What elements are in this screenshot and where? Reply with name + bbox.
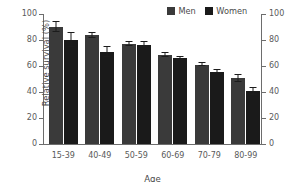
y-tick-label-right-20: 20: [269, 114, 301, 122]
y-tick-label-left-60: 60: [0, 62, 37, 70]
error-bar-line: [70, 33, 71, 47]
x-tick-label-50-59: 50-59: [116, 151, 156, 160]
x-tick-label-80-99: 80-99: [226, 151, 266, 160]
error-bar-cap-bottom: [250, 94, 257, 95]
y-tick-right-40: [262, 92, 266, 93]
error-bar-cap-top: [67, 32, 74, 33]
error-bar-cap-top: [89, 32, 96, 33]
error-bar-cap-top: [140, 41, 147, 42]
error-bar-cap-top: [125, 41, 132, 42]
y-tick-label-left-80: 80: [0, 36, 37, 44]
bar-women-40-49[interactable]: [100, 52, 114, 144]
bar-group: [48, 14, 79, 144]
chart-title-cutoff: [104, 0, 224, 2]
error-bar-cap-top: [235, 74, 242, 75]
bar-groups: [43, 14, 262, 145]
bar-group: [194, 14, 225, 144]
error-bar-cap-bottom: [140, 46, 147, 47]
y-tick-label-right-0: 0: [269, 140, 301, 148]
bar-women-50-59[interactable]: [137, 45, 151, 144]
error-bar-cap-bottom: [235, 81, 242, 82]
y-tick-right-0: [262, 144, 266, 145]
bar-men-50-59[interactable]: [122, 44, 136, 144]
error-bar-cap-bottom: [198, 65, 205, 66]
y-tick-right-60: [262, 66, 266, 67]
y-tick-label-left-40: 40: [0, 88, 37, 96]
bar-group: [230, 14, 261, 144]
y-tick-label-left-0: 0: [0, 140, 37, 148]
error-bar-cap-top: [162, 52, 169, 53]
error-bar-cap-bottom: [67, 46, 74, 47]
bar-group: [121, 14, 152, 144]
bar-women-70-79[interactable]: [210, 72, 224, 144]
error-bar-cap-top: [177, 56, 184, 57]
bar-men-60-69[interactable]: [158, 55, 172, 144]
y-tick-right-80: [262, 40, 266, 41]
bar-men-40-49[interactable]: [85, 35, 99, 144]
y-tick-label-right-60: 60: [269, 62, 301, 70]
error-bar-cap-top: [213, 69, 220, 70]
bar-men-80-99[interactable]: [231, 78, 245, 144]
y-tick-label-left-20: 20: [0, 114, 37, 122]
error-bar-cap-top: [104, 46, 111, 47]
y-tick-right-100: [262, 14, 266, 15]
error-bar-cap-bottom: [52, 31, 59, 32]
bar-men-70-79[interactable]: [195, 65, 209, 144]
y-tick-right-20: [262, 118, 266, 119]
bar-women-15-39[interactable]: [64, 40, 78, 144]
error-bar-cap-bottom: [125, 45, 132, 46]
x-tick-label-60-69: 60-69: [153, 151, 193, 160]
y-tick-label-right-100: 100: [269, 10, 301, 18]
x-tick-label-70-79: 70-79: [189, 151, 229, 160]
error-bar-cap-bottom: [177, 59, 184, 60]
error-bar-cap-bottom: [213, 72, 220, 73]
bar-group: [84, 14, 115, 144]
error-bar-cap-bottom: [89, 37, 96, 38]
error-bar-cap-top: [198, 62, 205, 63]
x-tick-label-40-49: 40-49: [80, 151, 120, 160]
chart-figure: Men Women 020406080100 020406080100 15-3…: [0, 0, 301, 182]
y-axis-title: Relative survival (%): [41, 8, 51, 118]
bar-women-80-99[interactable]: [246, 91, 260, 144]
bar-women-60-69[interactable]: [173, 58, 187, 144]
error-bar-cap-bottom: [162, 56, 169, 57]
plot-area: 020406080100 020406080100 15-3940-4950-5…: [43, 14, 262, 145]
error-bar-cap-top: [250, 87, 257, 88]
y-tick-label-left-100: 100: [0, 10, 37, 18]
x-tick-label-15-39: 15-39: [43, 151, 83, 160]
y-tick-label-right-80: 80: [269, 36, 301, 44]
y-tick-label-right-40: 40: [269, 88, 301, 96]
x-axis-title: Age: [43, 174, 262, 182]
error-bar-cap-bottom: [104, 56, 111, 57]
error-bar-cap-top: [52, 21, 59, 22]
bar-group: [157, 14, 188, 144]
